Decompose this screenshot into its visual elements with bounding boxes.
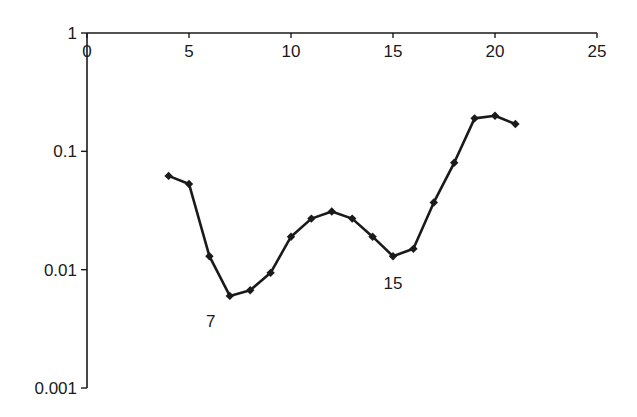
x-tick-label: 20 (486, 42, 505, 61)
diamond-marker-icon (164, 172, 172, 180)
x-tick-label: 15 (384, 42, 403, 61)
y-tick-label: 0.01 (44, 261, 77, 280)
x-axis-ticks: 0510152025 (82, 33, 606, 61)
annotations: 715 (206, 274, 402, 331)
x-tick-label: 0 (82, 42, 91, 61)
point-annotation: 7 (206, 312, 215, 331)
diamond-marker-icon (491, 112, 499, 120)
x-tick-label: 5 (184, 42, 193, 61)
x-tick-label: 25 (588, 42, 607, 61)
y-axis-ticks: 10.10.010.001 (34, 24, 87, 398)
data-series (164, 112, 519, 301)
point-annotation: 15 (384, 274, 403, 293)
chart: 0510152025 10.10.010.001 715 (0, 0, 637, 417)
axes (87, 33, 597, 388)
y-tick-label: 0.1 (53, 142, 77, 161)
series-line (169, 116, 516, 296)
diamond-marker-icon (470, 114, 478, 122)
y-tick-label: 1 (68, 24, 77, 43)
diamond-marker-icon (511, 120, 519, 128)
diamond-marker-icon (328, 207, 336, 215)
x-tick-label: 10 (282, 42, 301, 61)
diamond-marker-icon (185, 180, 193, 188)
y-tick-label: 0.001 (34, 379, 77, 398)
diamond-marker-icon (409, 245, 417, 253)
